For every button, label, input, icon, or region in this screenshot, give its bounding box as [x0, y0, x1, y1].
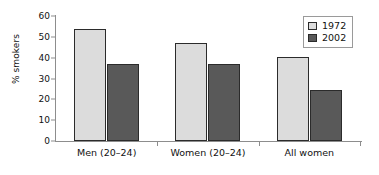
y-axis-label: % smokers: [11, 9, 21, 109]
x-tick-label: All women: [259, 147, 360, 158]
bar-2002: [208, 64, 240, 141]
bar-group: [157, 16, 258, 141]
legend-item-1972: 1972: [308, 20, 346, 32]
legend-label-2002: 2002: [322, 32, 346, 44]
x-tick-mark: [259, 141, 260, 146]
x-axis-line: [55, 141, 362, 142]
bar-1972: [175, 43, 207, 141]
x-tick-label: Men (20–24): [56, 147, 157, 158]
legend-label-1972: 1972: [322, 20, 346, 32]
x-tick-label: Women (20–24): [157, 147, 258, 158]
bar-2002: [310, 90, 342, 141]
legend-swatch-icon-2002: [308, 34, 317, 42]
bar-1972: [74, 29, 106, 142]
bar-chart: % smokers 0102030405060 Men (20–24)Women…: [0, 0, 379, 175]
legend: 1972 2002: [303, 16, 353, 48]
legend-item-2002: 2002: [308, 32, 346, 44]
x-tick-mark: [157, 141, 158, 146]
legend-swatch-icon-1972: [308, 22, 317, 30]
bar-1972: [277, 57, 309, 141]
bar-2002: [107, 64, 139, 141]
bar-group: [56, 16, 157, 141]
x-tick-mark: [360, 141, 361, 146]
